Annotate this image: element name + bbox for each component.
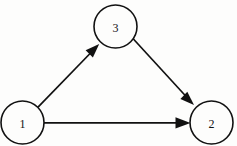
node-2-label: 2 [209, 117, 215, 131]
graph-canvas: 1 3 2 [0, 0, 237, 146]
edge-1-to-3-line [38, 52, 92, 108]
edge-1-to-2 [44, 117, 191, 128]
edge-1-to-2-arrowhead [176, 117, 191, 128]
graph-figure: 1 3 2 [0, 0, 237, 146]
node-2[interactable]: 2 [190, 101, 233, 144]
edge-3-to-2-line [133, 39, 186, 97]
node-3[interactable]: 3 [94, 5, 137, 48]
node-3-label: 3 [113, 21, 119, 35]
node-1[interactable]: 1 [1, 101, 44, 144]
edge-3-to-2 [133, 39, 194, 105]
node-1-label: 1 [20, 117, 26, 131]
edge-1-to-3 [38, 44, 99, 107]
